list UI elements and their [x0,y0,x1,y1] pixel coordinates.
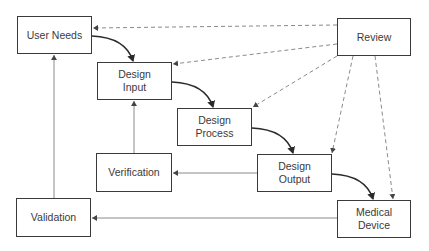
edge-review-designoutput [332,56,353,153]
node-label: Design Output [278,160,311,186]
node-design-process: Design Process [177,108,252,146]
edge-review-designinput [173,44,337,64]
edge-designoutput-medicaldevice [332,174,373,199]
node-medical-device: Medical Device [337,200,411,238]
node-label: Validation [31,211,76,224]
node-design-output: Design Output [257,154,332,192]
node-label: Review [357,31,391,44]
node-design-input: Design Input [97,62,172,100]
edge-designinput-designprocess [172,82,213,107]
node-label: Design Process [196,114,234,140]
edge-userneeds-designinput [92,36,133,61]
node-review: Review [337,18,411,56]
edge-review-medicaldevice [375,56,393,199]
node-label: Verification [108,166,159,179]
edge-review-userneeds [93,25,337,28]
node-validation: Validation [16,198,91,237]
edge-review-designprocess [253,56,337,107]
node-label: User Needs [27,29,82,42]
node-verification: Verification [96,153,172,192]
node-label: Medical Device [356,206,392,232]
edge-designprocess-designoutput [252,128,293,153]
node-label: Design Input [118,68,151,94]
node-user-needs: User Needs [17,16,92,54]
